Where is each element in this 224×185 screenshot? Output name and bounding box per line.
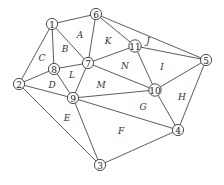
graph-edges [19,14,206,165]
node-8: 8 [48,63,59,74]
node-11: 11 [129,40,141,52]
node-label: 11 [129,42,140,52]
edge-6-5 [96,14,206,60]
region-label-G: G [139,102,146,112]
node-label: 6 [93,10,99,20]
node-5: 5 [200,54,211,65]
node-6: 6 [90,8,101,19]
region-label-J: J [144,36,151,46]
region-labels: ABCDEFGHIJKLMN [39,30,187,136]
region-label-A: A [76,30,84,40]
node-9: 9 [67,92,78,103]
node-10: 10 [149,84,161,96]
edge-9-3 [73,98,100,165]
edge-1-6 [52,14,96,24]
edge-1-8 [52,24,54,69]
region-label-C: C [39,53,46,63]
edge-1-2 [19,24,52,84]
node-3: 3 [94,159,105,170]
node-7: 7 [82,57,93,68]
node-4: 4 [172,124,183,135]
region-label-E: E [63,113,71,123]
node-label: 7 [85,59,91,69]
graph-nodes: 1234567891011 [13,8,211,170]
node-label: 1 [49,20,55,30]
node-1: 1 [46,18,57,29]
node-label: 10 [149,86,161,96]
edge-11-5 [135,46,206,60]
node-label: 3 [97,161,103,171]
region-label-N: N [120,61,130,71]
region-label-D: D [47,80,55,90]
region-label-B: B [61,44,69,54]
planar-graph-diagram: ABCDEFGHIJKLMN 1234567891011 [0,0,224,185]
region-label-K: K [104,36,113,46]
node-label: 2 [16,80,22,90]
region-label-L: L [68,70,75,80]
region-label-I: I [159,62,164,72]
node-label: 5 [203,56,209,66]
edge-3-4 [100,130,178,165]
region-label-F: F [117,126,125,136]
region-label-H: H [177,92,186,102]
node-2: 2 [13,78,24,89]
edge-6-7 [88,14,96,63]
node-label: 4 [175,126,181,136]
edge-9-10 [73,90,155,98]
node-label: 9 [70,94,76,104]
region-label-M: M [95,80,106,90]
node-label: 8 [51,65,57,75]
